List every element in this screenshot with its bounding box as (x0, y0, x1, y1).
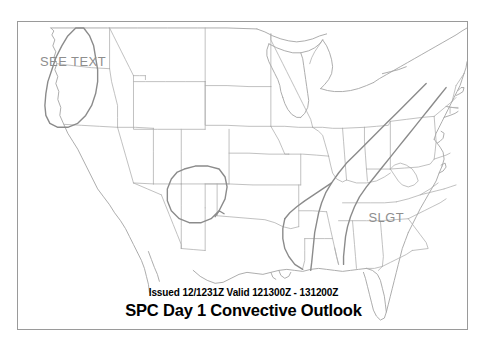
outlook-line-gulf-closure (283, 219, 303, 270)
us-outlook-map: SEE TEXT SLGT (18, 22, 467, 329)
outlook-line-southeast-branch (285, 183, 332, 219)
risk-label-slgt: SLGT (368, 210, 404, 225)
outlook-area-pacific-northwest (45, 28, 98, 127)
outlook-line-southeast-west (311, 84, 426, 271)
map-frame: SEE TEXT SLGT (17, 21, 468, 330)
outlook-area-southern-plains (167, 166, 227, 223)
risk-label-see-text: SEE TEXT (40, 54, 106, 69)
state-borders (57, 28, 464, 270)
spc-outlook-graphic: SEE TEXT SLGT Issued 12/1231Z Valid 1213… (0, 0, 487, 342)
us-coastline (51, 28, 467, 320)
